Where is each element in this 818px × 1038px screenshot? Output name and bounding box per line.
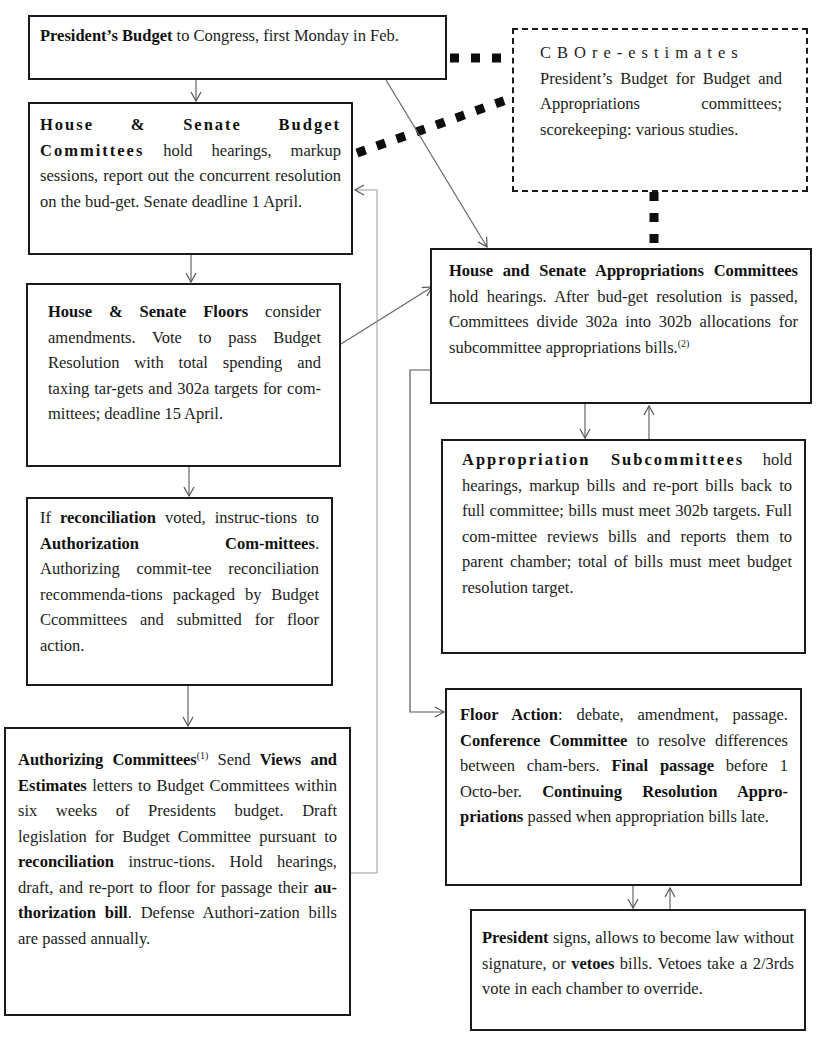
node-text-bold: Final passage — [611, 756, 714, 775]
node-text: voted, instruc-tions to — [156, 508, 319, 527]
node-president-signs: President signs, allows to become law wi… — [470, 909, 806, 1031]
node-text-bold: Appropriation Subcommittees — [462, 450, 744, 469]
node-presidents-budget: President’s Budget to Congress, first Mo… — [28, 15, 447, 80]
node-text-bold: Conference Committee — [460, 731, 627, 750]
node-text: CBOre-estimates — [540, 43, 744, 62]
node-text-bold: Authorization Com-mittees — [40, 534, 315, 553]
node-text-bold: reconciliation — [18, 852, 114, 871]
node-appropriation-subcommittees: Appropriation Subcommittees hold hearing… — [441, 439, 806, 654]
node-authorizing-committees: Authorizing Committees(1) Send Views and… — [4, 727, 351, 1016]
node-text-bold: House & Senate Floors — [48, 302, 248, 321]
node-text: : debate, amendment, passage. — [558, 705, 788, 724]
node-text: passed when appropriation bills late. — [523, 807, 769, 826]
footnote-marker: (2) — [678, 337, 690, 348]
node-text: hold hearings, markup bills and re-port … — [462, 450, 792, 597]
node-text-bold: President — [482, 928, 549, 947]
node-floors: House & Senate Floors consider amendment… — [26, 283, 341, 467]
node-reconciliation: If reconciliation voted, instruc-tions t… — [26, 497, 333, 686]
node-text-bold: President’s Budget — [40, 26, 172, 45]
node-text: Send — [208, 750, 259, 769]
node-text-bold: vetoes — [571, 954, 614, 973]
node-text: President’s Budget for Budget and Approp… — [540, 69, 782, 139]
node-text: If — [40, 508, 60, 527]
node-text-bold: Floor Action — [460, 705, 558, 724]
node-text-bold: reconciliation — [60, 508, 156, 527]
node-text-bold: House and Senate Appropriations Committe… — [449, 261, 798, 280]
node-text: hold hearings. After bud-get resolution … — [449, 287, 798, 357]
node-text-bold: Authorizing Committees — [18, 750, 197, 769]
node-text: to Congress, first Monday in Feb. — [172, 26, 398, 45]
node-appropriations-committees: House and Senate Appropriations Committe… — [430, 248, 812, 404]
node-floor-action: Floor Action: debate, amendment, passage… — [445, 688, 802, 886]
footnote-marker: (1) — [197, 750, 209, 761]
node-cbo: CBOre-estimates President’s Budget for B… — [512, 28, 808, 192]
node-budget-committees: House & Senate Budget Committees hold he… — [28, 102, 353, 255]
